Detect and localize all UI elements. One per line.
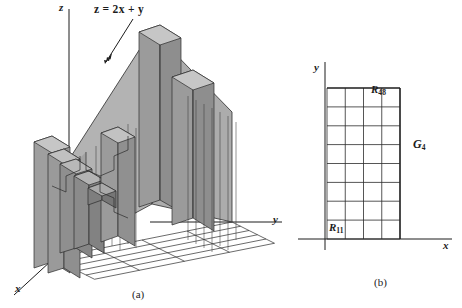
panel-b-x-axis-label: x: [443, 240, 449, 251]
x-axis-label: x: [15, 283, 21, 294]
cell-label-r48: R48: [371, 84, 386, 97]
caption-a: (a): [132, 288, 144, 300]
plane-annotation-arrow: [104, 19, 133, 64]
y-axis-label: y: [273, 214, 278, 225]
plane-equation-label: z = 2x + y: [94, 3, 144, 15]
figure-root: .ax { stroke:#1c1c1c; stroke-width:1; fi…: [0, 0, 462, 308]
caption-b: (b): [374, 276, 387, 288]
z-axis-label: z: [59, 2, 63, 13]
grid-label-g4: G4: [413, 138, 426, 152]
cell-label-r11: R11: [329, 222, 344, 235]
figure-svg: .ax { stroke:#1c1c1c; stroke-width:1; fi…: [0, 0, 462, 308]
grid-cells: [327, 88, 400, 239]
panel-a-3d-plot: [14, 9, 282, 295]
column-small-4: [74, 171, 104, 253]
column-tall-2: [172, 70, 214, 231]
panel-b-y-axis-label: y: [314, 62, 319, 73]
